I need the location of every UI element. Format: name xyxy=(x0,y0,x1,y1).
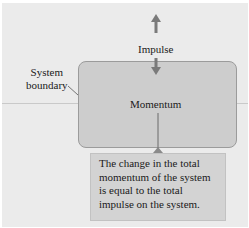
callout-line: is equal to the total xyxy=(99,184,225,198)
callout-line: impulse on the system. xyxy=(99,198,225,212)
callout-line: The change in the total xyxy=(99,157,225,171)
down-arrow-icon xyxy=(151,58,161,75)
diagram-canvas: Impulse Momentum System boundary The cha… xyxy=(2,3,248,227)
callout-line: momentum of the system xyxy=(99,171,225,185)
callout-box: The change in the total momentum of the … xyxy=(90,153,226,221)
up-arrow-icon xyxy=(151,14,161,33)
boundary-leader-line xyxy=(68,86,78,95)
